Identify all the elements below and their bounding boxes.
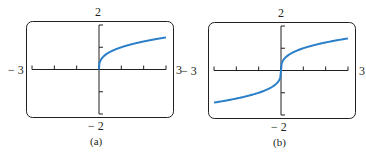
graph-panel-b: 2 − 2 − 3 3 (b)	[183, 0, 366, 152]
y-max-label: 2	[278, 7, 284, 19]
y-min-label: − 2	[88, 120, 104, 132]
x-max-label: 3	[359, 65, 365, 77]
caption-a: (a)	[90, 136, 102, 147]
x-min-label: − 3	[181, 65, 197, 77]
y-max-label: 2	[95, 6, 101, 18]
graph-panel-a: 2 − 2 − 3 3 (a)	[0, 0, 183, 152]
x-min-label: − 3	[8, 64, 24, 76]
function-curve	[99, 37, 166, 69]
y-min-label: − 2	[271, 121, 287, 133]
caption-b: (b)	[273, 137, 286, 148]
